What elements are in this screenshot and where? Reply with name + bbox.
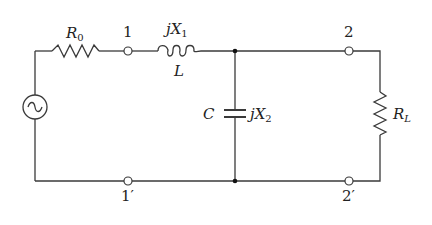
ac-source-icon <box>23 95 47 119</box>
label-l: L <box>173 62 184 80</box>
label-terminal-1-prime: 1′ <box>121 187 135 205</box>
terminal-2-prime <box>345 177 353 185</box>
terminal-1 <box>124 47 132 55</box>
label-jx1: jX1 <box>163 20 188 39</box>
terminal-1-prime <box>124 177 132 185</box>
label-jx2: jX2 <box>247 105 272 124</box>
terminal-2 <box>345 47 353 55</box>
junction-bottom <box>233 179 238 184</box>
junction-top <box>233 49 238 54</box>
label-terminal-2-prime: 2′ <box>342 187 356 205</box>
label-r0: R0 <box>65 24 84 43</box>
label-rl: RL <box>392 105 411 124</box>
label-c: C <box>203 105 215 123</box>
circuit-diagram: R0 1 1′ 2 2′ jX1 L C jX2 RL <box>0 0 432 225</box>
wire-rl-t2p <box>353 135 380 181</box>
resistor-rl-icon <box>374 92 386 135</box>
wire-t2-rl <box>353 51 380 92</box>
capacitor-icon <box>224 110 246 117</box>
resistor-r0-icon <box>52 45 99 57</box>
label-terminal-2: 2 <box>344 23 354 41</box>
label-terminal-1: 1 <box>123 23 133 41</box>
inductor-icon <box>158 46 201 57</box>
